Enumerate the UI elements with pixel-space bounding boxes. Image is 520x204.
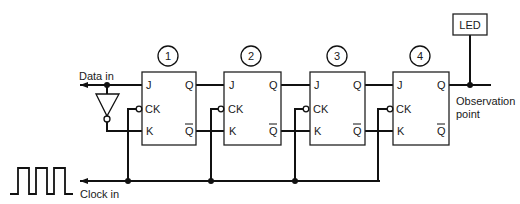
pin-ck: CK <box>145 103 161 115</box>
pin-k: K <box>397 125 405 137</box>
pin-ck: CK <box>228 103 244 115</box>
flip-flop-2: 2 J CK K Q Q <box>218 46 281 145</box>
output-junction-dot <box>467 82 473 88</box>
pin-k: K <box>229 125 237 137</box>
pin-q: Q <box>353 79 362 91</box>
ff3-clock-wire <box>295 109 304 181</box>
ff-number: 1 <box>165 50 171 62</box>
led-label: LED <box>459 19 480 31</box>
clock-junction-dot <box>208 178 214 184</box>
observation-label-2: point <box>456 108 480 120</box>
data-in-label: Data in <box>79 70 114 82</box>
inverter-output-wire <box>107 122 142 131</box>
clock-junction-dot <box>292 178 298 184</box>
pin-j: J <box>397 79 403 91</box>
clock-junction-dot <box>125 178 131 184</box>
pin-k: K <box>146 125 154 137</box>
flip-flop-3: 3 J CK K Q Q <box>303 46 365 145</box>
ff2-clock-wire <box>211 109 219 181</box>
ff-number: 2 <box>248 50 254 62</box>
pin-k: K <box>314 125 322 137</box>
shift-register-diagram: Clock in Data in LED Observation point 1… <box>0 0 520 204</box>
flip-flop-4: 4 J CK K Q Q <box>387 46 449 145</box>
pin-qbar: Q <box>353 125 362 137</box>
pin-ck: CK <box>313 103 329 115</box>
ck-bubble <box>136 106 142 112</box>
clock-in-label: Clock in <box>80 188 119 200</box>
pin-q: Q <box>185 79 194 91</box>
data-arrow-icon <box>80 82 88 88</box>
pin-ck: CK <box>396 103 412 115</box>
clock-waveform-icon <box>10 168 73 194</box>
ck-bubble <box>303 106 309 112</box>
inverter-icon <box>96 94 119 116</box>
ck-bubble <box>387 106 393 112</box>
pin-q: Q <box>437 79 446 91</box>
clock-arrow-icon <box>80 178 88 184</box>
pin-qbar: Q <box>269 125 278 137</box>
pin-q: Q <box>269 79 278 91</box>
observation-label: Observation <box>456 95 515 107</box>
inverter-bubble <box>104 116 110 122</box>
pin-qbar: Q <box>185 125 194 137</box>
ff-number: 4 <box>417 50 423 62</box>
ff1-clock-wire <box>128 109 136 181</box>
ck-bubble <box>218 106 224 112</box>
flip-flop-1: 1 J CK K Q Q <box>136 46 196 145</box>
pin-j: J <box>229 79 235 91</box>
ff4-clock-wire <box>378 109 388 181</box>
ff-number: 3 <box>334 50 340 62</box>
pin-j: J <box>146 79 152 91</box>
pin-qbar: Q <box>437 125 446 137</box>
pin-j: J <box>314 79 320 91</box>
